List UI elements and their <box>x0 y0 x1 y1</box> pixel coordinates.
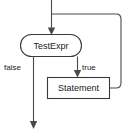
flowchart-canvas: TestExpr Statement false true <box>0 0 130 135</box>
flowchart-diagram: TestExpr Statement false true <box>0 0 130 135</box>
entry-arrowhead-icon <box>48 28 55 36</box>
true-arrowhead-icon <box>74 70 81 78</box>
edge-false <box>30 57 37 130</box>
edge-true <box>74 57 81 78</box>
node-statement[interactable]: Statement <box>48 78 110 99</box>
true-edge-label: true <box>82 63 96 72</box>
node-test-expr[interactable]: TestExpr <box>21 35 82 57</box>
statement-label: Statement <box>58 83 100 93</box>
false-edge-label: false <box>4 63 21 72</box>
test-expr-label: TestExpr <box>33 41 68 51</box>
edge-entry <box>48 0 55 35</box>
false-arrowhead-icon <box>30 121 37 129</box>
